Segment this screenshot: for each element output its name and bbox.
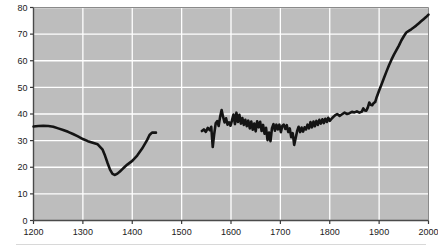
y-tick-label: 70	[17, 29, 27, 39]
y-tick-label: 10	[17, 189, 27, 199]
footer-rule	[16, 244, 426, 245]
x-tick-label: 1700	[270, 227, 290, 237]
y-tick-label: 40	[17, 109, 27, 119]
x-tick-label: 1300	[73, 227, 93, 237]
y-tick-label: 60	[17, 56, 27, 66]
x-tick-label: 1400	[122, 227, 142, 237]
x-tick-label: 1500	[172, 227, 192, 237]
x-tick-label: 1800	[320, 227, 340, 237]
y-tick-label: 0	[22, 216, 27, 226]
line-chart-plot: 01020304050607080 1200130014001500160017…	[0, 0, 438, 247]
x-axis-tick-labels: 120013001400150016001700180019002000	[23, 227, 438, 237]
x-tick-label: 1200	[23, 227, 43, 237]
x-tick-label: 2000	[418, 227, 438, 237]
y-tick-label: 50	[17, 83, 27, 93]
y-tick-label: 20	[17, 162, 27, 172]
chart-figure: 기대 수명, 년 01020304050607080 1200130014001…	[0, 0, 438, 247]
y-tick-label: 80	[17, 3, 27, 13]
y-axis-tick-labels: 01020304050607080	[17, 3, 27, 226]
x-tick-label: 1600	[221, 227, 241, 237]
y-tick-label: 30	[17, 136, 27, 146]
x-tick-label: 1900	[369, 227, 389, 237]
